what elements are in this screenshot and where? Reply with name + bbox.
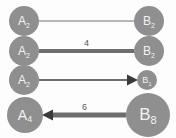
node-b2-row-2[interactable]: B2 xyxy=(134,36,164,66)
node-label-base: B xyxy=(139,105,150,124)
edge-weight-label-row-2: 4 xyxy=(84,38,89,48)
edge-weight-label-row-4: 6 xyxy=(82,102,87,112)
arrow-head-left-row-4 xyxy=(42,110,53,121)
node-b2-row-1[interactable]: B2 xyxy=(134,6,164,36)
node-label-subscript: 2 xyxy=(26,81,30,88)
node-b1-row-3[interactable]: B1 xyxy=(137,70,157,90)
node-label-subscript: 8 xyxy=(151,114,157,126)
node-label-subscript: 2 xyxy=(26,52,30,59)
node-label-subscript: 2 xyxy=(151,52,155,59)
node-label-subscript: 4 xyxy=(27,114,32,124)
node-label-base: A xyxy=(18,73,26,87)
graph-diagram: A2B2A2B2A2B1A4B8 46 xyxy=(0,0,176,138)
node-a2-row-1[interactable]: A2 xyxy=(9,6,39,36)
node-label-base: A xyxy=(18,44,26,58)
node-label-base: A xyxy=(18,14,26,28)
graph-canvas: A2B2A2B2A2B1A4B8 46 xyxy=(0,0,176,138)
node-b8-row-4[interactable]: B8 xyxy=(126,93,170,137)
node-label-base: B xyxy=(143,14,151,28)
edges-layer xyxy=(39,21,138,121)
node-a2-row-2[interactable]: A2 xyxy=(9,36,39,66)
arrow-head-right-row-3 xyxy=(127,75,138,86)
node-a2-row-3[interactable]: A2 xyxy=(9,65,39,95)
node-a4-row-4[interactable]: A4 xyxy=(7,97,43,133)
node-label-base: B xyxy=(143,44,151,58)
node-label-subscript: 2 xyxy=(26,22,30,29)
node-label-subscript: 2 xyxy=(151,22,155,29)
